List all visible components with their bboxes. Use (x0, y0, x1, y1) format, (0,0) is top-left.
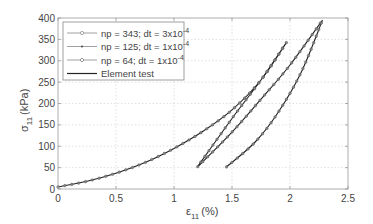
y-tick-label: 400 (38, 13, 55, 24)
legend-entry-2: np = 64; dt = 1x10-4 (101, 54, 184, 66)
legend: np = 343; dt = 3x10-4np = 125; dt = 1x10… (63, 22, 189, 80)
y-tick-label: 100 (38, 141, 55, 152)
x-tick-label: 0 (55, 193, 61, 204)
x-tick-label: 0.5 (109, 193, 123, 204)
x-tick-label: 2.5 (341, 193, 355, 204)
y-tick-label: 200 (38, 98, 55, 109)
x-axis-label: ε11(%) (186, 205, 218, 221)
y-tick-label: 250 (38, 77, 55, 88)
x-tick-label: 1 (171, 193, 177, 204)
y-axis-label: σ11(kPa) (18, 89, 34, 132)
y-tick-label: 350 (38, 34, 55, 45)
y-tick-label: 150 (38, 119, 55, 130)
legend-entry-3: Element test (101, 68, 154, 79)
legend-entry-0: np = 343; dt = 3x10-4 (101, 27, 189, 39)
y-tick-label: 50 (44, 162, 56, 173)
legend-entry-1: np = 125; dt = 1x10-4 (101, 40, 189, 52)
y-tick-label: 300 (38, 55, 55, 66)
stress-strain-chart: 00.511.522.5 050100150200250300350400 ε1… (0, 0, 373, 224)
x-tick-label: 2 (287, 193, 293, 204)
y-tick-label: 0 (49, 184, 55, 195)
x-tick-label: 1.5 (225, 193, 239, 204)
